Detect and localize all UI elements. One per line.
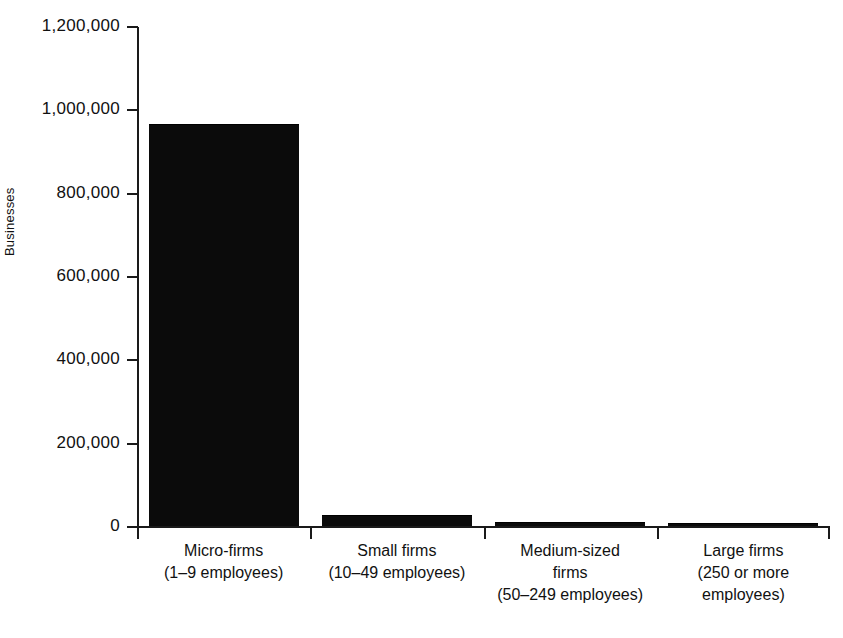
x-category-label: Micro-firms(1–9 employees): [137, 540, 310, 584]
x-category-label-line: (50–249 employees): [484, 584, 657, 606]
x-tick-mark: [310, 528, 312, 539]
x-category-label-line: employees): [657, 584, 830, 606]
bar-chart: Businesses 0200,000400,000600,000800,000…: [0, 0, 843, 638]
bar-slot: [137, 27, 310, 527]
y-tick-label: 0: [10, 516, 120, 536]
y-tick-label: 1,200,000: [10, 16, 120, 36]
x-category-label: Large firms(250 or moreemployees): [657, 540, 830, 606]
x-category-label-line: firms: [484, 562, 657, 584]
bar-slot: [484, 27, 657, 527]
x-category-label-line: Medium-sized: [484, 540, 657, 562]
x-category-label-line: (250 or more: [657, 562, 830, 584]
x-tick-mark: [657, 528, 659, 539]
y-tick-label: 600,000: [10, 266, 120, 286]
bar-slot: [657, 27, 830, 527]
y-tick-label: 1,000,000: [10, 99, 120, 119]
x-category-label-line: (1–9 employees): [137, 562, 310, 584]
y-tick-label: 200,000: [10, 433, 120, 453]
x-tick-mark: [137, 528, 139, 539]
bar-slot: [310, 27, 483, 527]
x-category-label-line: Micro-firms: [137, 540, 310, 562]
bar[interactable]: [149, 124, 299, 527]
x-tick-mark: [484, 528, 486, 539]
y-tick-label: 800,000: [10, 183, 120, 203]
x-tick-mark: [828, 528, 830, 539]
plot-area: [137, 27, 830, 527]
x-category-label-line: Small firms: [310, 540, 483, 562]
x-category-label-line: Large firms: [657, 540, 830, 562]
x-category-label-line: (10–49 employees): [310, 562, 483, 584]
x-category-label: Small firms(10–49 employees): [310, 540, 483, 584]
y-tick-label: 400,000: [10, 349, 120, 369]
x-category-label: Medium-sizedfirms(50–249 employees): [484, 540, 657, 606]
